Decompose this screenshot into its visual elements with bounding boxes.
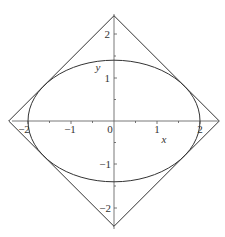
x-tick-label-1: 1 — [154, 123, 160, 135]
x-tick-label-neg1: −1 — [64, 123, 76, 135]
plot-area: −2 −1 0 1 2 2 1 −1 −2 x y — [0, 0, 225, 237]
y-tick-label-2: 2 — [105, 28, 111, 40]
x-axis-label: x — [161, 133, 167, 145]
origin-label: 0 — [107, 123, 113, 135]
y-tick-label-neg1: −1 — [99, 158, 111, 170]
x-tick-label-neg2: −2 — [18, 123, 30, 135]
x-tick-label-2: 2 — [197, 123, 203, 135]
y-tick-label-neg2: −2 — [99, 202, 111, 214]
y-axis-label: y — [95, 61, 101, 73]
y-tick-label-1: 1 — [105, 72, 111, 84]
